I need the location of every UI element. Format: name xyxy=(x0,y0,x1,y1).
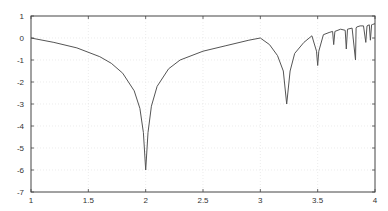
y-tick-label: -2 xyxy=(17,78,25,87)
x-tick-label: 1 xyxy=(29,196,34,205)
line-chart: 11.522.533.54 10-1-2-3-4-5-6-7 xyxy=(0,0,388,211)
y-tick-label: -7 xyxy=(17,188,25,197)
x-tick-label: 1.5 xyxy=(83,196,95,205)
grid-lines xyxy=(31,16,375,192)
x-tick-label: 3 xyxy=(258,196,263,205)
x-axis-ticks: 11.522.533.54 xyxy=(29,16,378,205)
y-tick-label: 0 xyxy=(20,34,25,43)
y-tick-label: -1 xyxy=(17,56,25,65)
x-tick-label: 4 xyxy=(373,196,378,205)
y-axis-ticks: 10-1-2-3-4-5-6-7 xyxy=(17,12,375,197)
x-tick-label: 2 xyxy=(143,196,148,205)
y-tick-label: -5 xyxy=(17,144,25,153)
x-tick-label: 3.5 xyxy=(312,196,324,205)
y-tick-label: -4 xyxy=(17,122,25,131)
y-tick-label: 1 xyxy=(20,12,25,21)
x-tick-label: 2.5 xyxy=(197,196,209,205)
y-tick-label: -6 xyxy=(17,166,25,175)
y-tick-label: -3 xyxy=(17,100,25,109)
